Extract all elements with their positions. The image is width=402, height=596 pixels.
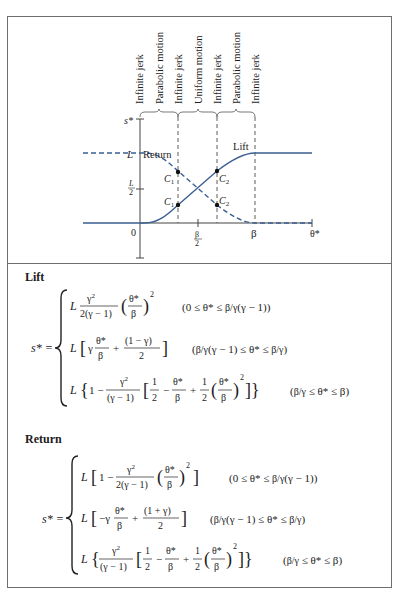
svg-text:): ): [226, 549, 232, 570]
svg-text:γ2: γ2: [126, 463, 135, 475]
x-origin-label: 0: [131, 227, 136, 238]
svg-text:θ*: θ*: [219, 376, 229, 387]
svg-text:2: 2: [129, 188, 133, 197]
svg-text:1: 1: [145, 545, 150, 556]
svg-text:{: {: [91, 549, 100, 569]
y-axis-label: s*: [124, 115, 133, 126]
return-row-2-condition: (β/γ(γ − 1) ≤ θ* ≤ β/γ): [210, 513, 306, 526]
axes: [136, 119, 312, 258]
svg-text:1 −: 1 −: [89, 384, 103, 396]
x-tick-beta: β: [251, 227, 257, 239]
svg-text:+: +: [132, 512, 138, 524]
svg-text:θ*: θ*: [173, 376, 183, 387]
point-c2-upper: C2: [219, 173, 230, 186]
svg-text:[: [: [91, 508, 97, 528]
return-row-2: L [ −γ θ* β + (1 + γ) 2 ] (β/γ(γ − 1) ≤ …: [80, 505, 306, 531]
svg-text:(: (: [211, 380, 217, 401]
return-equation: s* = L [ 1 − γ2 2(γ − 1) ( θ* β ) 2 ] (0…: [0, 452, 402, 582]
lift-row-1: L γ2 2(γ − 1) ( θ* β ) 2 (0 ≤ θ* ≤ β/γ(γ…: [69, 290, 271, 320]
svg-text:θ*: θ*: [96, 335, 106, 346]
svg-text:β: β: [167, 479, 172, 490]
svg-text:L: L: [69, 341, 77, 355]
svg-text:γ2: γ2: [86, 292, 95, 304]
svg-text:2(γ − 1): 2(γ − 1): [80, 308, 112, 320]
lift-lhs: s* =: [31, 341, 53, 355]
svg-text:−: −: [163, 384, 169, 396]
motion-diagram: Infinite jerk Parabolic motion Infinite …: [0, 0, 402, 264]
return-row-1: L [ 1 − γ2 2(γ − 1) ( θ* β ) 2 ] (0 ≤ θ*…: [80, 461, 318, 491]
lift-row-3-condition: (β/γ ≤ θ* ≤ β): [290, 385, 349, 398]
svg-text:2: 2: [150, 290, 154, 299]
svg-text:−: −: [156, 553, 162, 565]
svg-text:β: β: [98, 350, 103, 361]
svg-text:]: ]: [181, 508, 187, 528]
svg-text:+: +: [183, 553, 189, 565]
svg-text:2: 2: [158, 520, 163, 531]
y-tick-half-L: L 2: [128, 179, 135, 197]
svg-text:β: β: [117, 520, 122, 531]
svg-text:β: β: [175, 392, 180, 403]
svg-text:]}: ]}: [245, 380, 260, 400]
svg-text:L: L: [69, 383, 77, 397]
svg-text:2(γ − 1): 2(γ − 1): [116, 479, 148, 491]
svg-text:γ: γ: [87, 342, 93, 354]
phase-braces: [140, 109, 255, 117]
svg-text:2: 2: [195, 239, 199, 248]
lift-row-1-condition: (0 ≤ θ* ≤ β/γ(γ − 1)): [182, 301, 271, 314]
svg-text:): ): [233, 380, 239, 401]
svg-text:2: 2: [145, 561, 150, 572]
x-axis-label: θ*: [310, 228, 320, 239]
svg-text:β: β: [221, 392, 226, 403]
svg-text:(γ − 1): (γ − 1): [107, 392, 134, 404]
svg-text:−γ: −γ: [99, 512, 110, 524]
svg-text:2: 2: [202, 392, 207, 403]
svg-text:(γ − 1): (γ − 1): [100, 561, 127, 573]
phase-label: Infinite jerk: [250, 53, 261, 104]
svg-text:1: 1: [195, 545, 200, 556]
svg-text:1: 1: [152, 376, 157, 387]
phase-label: Infinite jerk: [134, 53, 145, 104]
svg-text:2: 2: [195, 561, 200, 572]
svg-text:]: ]: [162, 338, 168, 358]
svg-text:[: [: [91, 467, 97, 487]
svg-text:2: 2: [233, 542, 237, 551]
lift-equation: s* = L γ2 2(γ − 1) ( θ* β ) 2 (0 ≤ θ* ≤ …: [0, 284, 402, 414]
x-tick-half-beta: β 2: [194, 230, 202, 248]
svg-text:θ*: θ*: [212, 545, 222, 556]
svg-text:1: 1: [202, 376, 207, 387]
svg-text:L: L: [80, 552, 88, 566]
svg-text:β: β: [131, 308, 136, 319]
svg-text:1 −: 1 −: [99, 471, 113, 483]
phase-label: Infinite jerk: [173, 53, 184, 104]
point-c2-lower: C2: [219, 195, 230, 208]
svg-text:θ*: θ*: [129, 293, 139, 304]
svg-text:2: 2: [186, 461, 190, 470]
return-row-3-condition: (β/γ ≤ θ* ≤ β): [283, 554, 342, 567]
point-c1-lower: C1: [164, 196, 175, 209]
svg-text:(: (: [121, 296, 127, 317]
svg-text:[: [: [136, 549, 142, 569]
phase-label: Uniform motion: [193, 35, 204, 104]
svg-text:β: β: [214, 561, 219, 572]
point-c1-upper: C1: [164, 173, 175, 186]
phase-label: Infinite jerk: [212, 53, 223, 104]
lift-row-2: L [ γ θ* β + (1 − γ) 2 ] (β/γ(γ − 1) ≤ θ…: [69, 335, 288, 361]
svg-text:2: 2: [240, 373, 244, 382]
svg-text:γ2: γ2: [111, 544, 120, 556]
return-row-1-condition: (0 ≤ θ* ≤ β/γ(γ − 1)): [229, 472, 318, 485]
svg-text:[: [: [143, 380, 149, 400]
svg-text:2: 2: [152, 392, 157, 403]
svg-text:θ*: θ*: [166, 545, 176, 556]
svg-text:β: β: [195, 230, 199, 239]
svg-text:θ*: θ*: [115, 505, 125, 516]
svg-text:+: +: [113, 342, 119, 354]
svg-text:): ): [179, 467, 185, 488]
svg-text:γ2: γ2: [119, 375, 128, 387]
svg-text:(1 − γ): (1 − γ): [125, 335, 152, 347]
svg-text:(: (: [204, 549, 210, 570]
svg-text:(: (: [157, 467, 163, 488]
svg-text:θ*: θ*: [165, 464, 175, 475]
return-lhs: s* =: [42, 512, 64, 526]
lift-row-2-condition: (β/γ(γ − 1) ≤ θ* ≤ β/γ): [192, 343, 288, 356]
return-section-title: Return: [25, 432, 62, 447]
